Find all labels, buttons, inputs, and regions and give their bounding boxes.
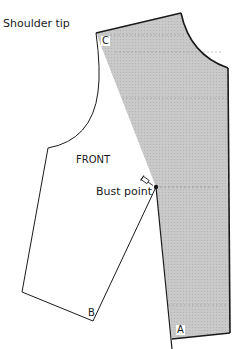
dart-leg-b — [93, 187, 156, 321]
point-c-label: C — [101, 36, 110, 46]
shoulder-tip-label: Shoulder tip — [3, 18, 70, 29]
point-b-label: B — [87, 308, 96, 318]
side-seam-line — [22, 148, 48, 292]
front-label: FRONT — [76, 155, 110, 165]
point-a-label: A — [176, 325, 185, 335]
shaded-pattern-piece — [96, 13, 230, 339]
bust-point-dot — [154, 185, 158, 189]
hem-line-front — [22, 292, 93, 321]
pattern-diagram — [0, 0, 238, 349]
armhole-curve — [48, 33, 99, 148]
bust-point-label: Bust point — [96, 186, 152, 197]
